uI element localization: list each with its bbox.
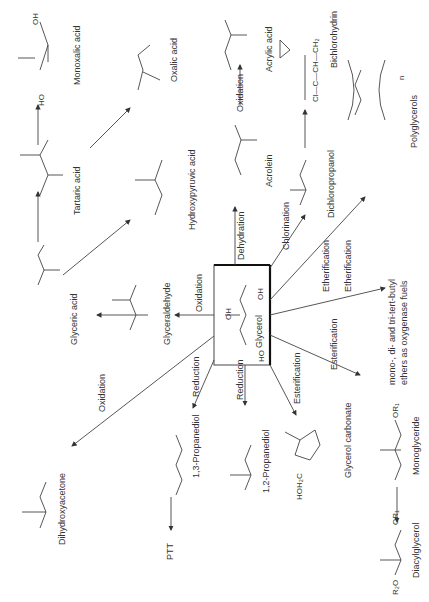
label-epichlorohydrin: Bichlorohydrin xyxy=(330,11,339,68)
label-monoglyceride: Monoglyceride xyxy=(412,416,421,475)
label-acrylic-acid: Acrylic acid xyxy=(265,26,274,72)
label-1-2-propanediol: 1,2-Propanediol xyxy=(262,429,271,493)
label-dehydration: Dehydration xyxy=(237,211,246,260)
label-dichloropropanol: Dichloropropanol xyxy=(327,150,336,218)
label-hydroxypyruvic-acid: Hydroxypyruvic acid xyxy=(188,149,197,230)
label-oxidation-acrylic: Oxidation xyxy=(236,74,245,112)
label-esterification-mono: Esterification xyxy=(330,318,339,370)
label-oxidation-glyceraldehyde: Oxidation xyxy=(195,274,204,312)
label-chlorination: Chlorination xyxy=(282,202,291,250)
label-reduction-12: Reduction xyxy=(236,359,245,400)
label-mesoxalic-acid: Monoxalic acid xyxy=(73,25,82,85)
label-oxalic-acid: Oxalic acid xyxy=(170,38,179,82)
label-reduction-13: Reduction xyxy=(192,356,201,397)
label-dihydroxyacetone: Dihydroxyacetone xyxy=(58,473,67,545)
atom-oh: OH xyxy=(32,13,40,25)
label-glycerol: Glycerol xyxy=(255,315,264,348)
label-ptt: PTT xyxy=(166,543,175,560)
label-tartaric-acid: Tartaric acid xyxy=(73,166,82,215)
label-1-3-propanediol: 1,3-Propanediol xyxy=(192,414,201,478)
atom-r2o: R₂O xyxy=(392,580,400,595)
label-glyceric-acid: Glyceric acid xyxy=(70,293,79,345)
label-glyceraldehyde: Glyceraldehyde xyxy=(163,282,172,345)
atom-hoh2c: HOH₂C xyxy=(296,473,304,500)
atom-oh: OH xyxy=(257,288,265,300)
atom-ho: HO xyxy=(258,350,266,362)
label-ethers-line1: mono-, di- and tri-tert-butyl xyxy=(388,279,397,385)
label-acrolein: Acrolein xyxy=(265,154,274,187)
label-etherification-1: Etherification xyxy=(322,240,331,292)
label-ethers-line2: ethers as oxygenase fuels xyxy=(400,280,409,385)
atom-or1: OR₁ xyxy=(392,403,400,418)
label-diacylglycerol: Diacylglycerol xyxy=(412,522,421,578)
label-esterification-carbonate: Esterification xyxy=(293,352,302,404)
atom-oh: OH xyxy=(225,308,233,320)
atom-epichlorohydrin-chain: Cl—C—CH—CH₂ xyxy=(312,38,320,102)
atom-or1: OR₁ xyxy=(392,510,400,525)
atom-n: n xyxy=(398,76,406,80)
label-etherification-2: Etherification xyxy=(344,240,353,292)
label-oxidation-dha: Oxidation xyxy=(98,374,107,412)
atom-ho: HO xyxy=(38,94,46,106)
label-polyglycerols: Polyglycerols xyxy=(410,95,419,148)
label-glycerol-carbonate: Glycerol carbonate xyxy=(344,402,353,478)
